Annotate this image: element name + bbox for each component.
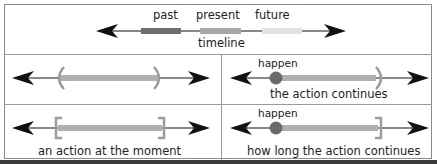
happen-dot	[270, 72, 283, 85]
bottom-strip	[0, 160, 437, 164]
caption-how-long-continues: how long the action continues	[247, 144, 420, 158]
label-past: past	[153, 8, 178, 22]
label-present: present	[196, 8, 240, 22]
caption-action-continues: the action continues	[270, 87, 388, 101]
caption-action-at-moment: an action at the moment	[38, 144, 181, 158]
present-segment	[200, 28, 241, 34]
diagram-graphics	[0, 0, 437, 164]
happen-label: happen	[258, 57, 298, 69]
label-future: future	[255, 8, 290, 22]
panel-continuous-range	[12, 67, 210, 89]
panel-action-continues	[230, 67, 429, 89]
future-segment	[262, 28, 302, 34]
happen-label: happen	[258, 107, 298, 119]
past-segment	[141, 28, 181, 34]
happen-dot	[270, 122, 283, 135]
timeline-caption: timeline	[198, 36, 245, 50]
panel-how-long-continues	[230, 118, 429, 138]
panel-action-at-moment	[12, 118, 210, 138]
